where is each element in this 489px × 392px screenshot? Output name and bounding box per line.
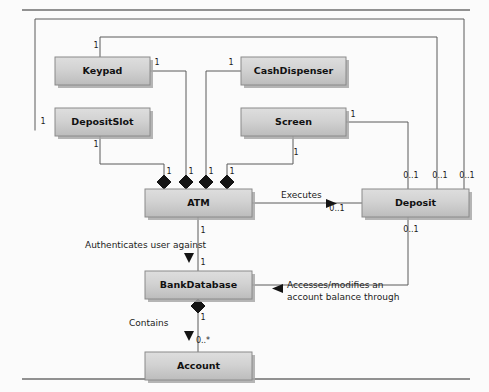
multiplicity-m-keypad-top: 1: [93, 41, 98, 50]
class-name-label: Deposit: [395, 197, 437, 208]
class-name-label: CashDispenser: [254, 65, 334, 76]
association-label-executes: Executes: [281, 190, 322, 200]
multiplicity-m-cashdispenser-left: 1: [228, 58, 233, 67]
multiplicity-m-atm-agg-3: 1: [208, 167, 213, 176]
multiplicity-m-atm-executes: 0..1: [329, 204, 344, 213]
multiplicity-m-atm-agg-4: 1: [229, 167, 234, 176]
class-name-label: Keypad: [83, 65, 123, 76]
multiplicity-m-depositslot-bottom: 1: [93, 140, 98, 149]
multiplicity-m-account-top: 0..*: [196, 336, 210, 345]
multiplicity-m-deposit-top-1: 0..1: [403, 171, 418, 180]
class-box-keypad[interactable]: Keypad: [55, 57, 153, 88]
class-box-atm[interactable]: ATM: [145, 189, 255, 220]
class-box-screen[interactable]: Screen: [241, 108, 349, 139]
association-label-contains: Contains: [129, 318, 169, 328]
class-name-label: Account: [177, 360, 221, 371]
multiplicity-m-deposit-bottom: 0..1: [403, 225, 418, 234]
class-box-account[interactable]: Account: [145, 352, 255, 383]
class-box-bankdatabase[interactable]: BankDatabase: [145, 271, 255, 302]
class-box-depositslot[interactable]: DepositSlot: [55, 108, 153, 139]
multiplicity-m-screen-bottom: 1: [293, 148, 298, 157]
multiplicity-m-keypad-right: 1: [154, 58, 159, 67]
multiplicity-m-bankdb-bottom: 1: [200, 313, 205, 322]
association-label-accesses-line2: account balance through: [287, 292, 399, 302]
association-label-authenticates: Authenticates user against: [85, 240, 207, 250]
multiplicity-m-bankdb-top: 1: [200, 258, 205, 267]
class-box-deposit[interactable]: Deposit: [362, 189, 472, 220]
class-box-cashdispenser[interactable]: CashDispenser: [241, 57, 349, 88]
class-name-label: DepositSlot: [71, 116, 134, 127]
multiplicity-m-atm-agg-1: 1: [166, 167, 171, 176]
multiplicity-m-atm-agg-2: 1: [188, 167, 193, 176]
multiplicity-m-screen-right: 1: [350, 110, 355, 119]
multiplicity-m-deposit-top-3: 0..1: [459, 171, 474, 180]
class-name-label: Screen: [275, 116, 312, 127]
uml-class-diagram: KeypadCashDispenserDepositSlotScreenATMD…: [0, 0, 489, 392]
diagram-canvas: KeypadCashDispenserDepositSlotScreenATMD…: [0, 0, 489, 392]
multiplicity-m-deposit-top-2: 0..1: [432, 171, 447, 180]
class-name-label: ATM: [187, 197, 210, 208]
class-name-label: BankDatabase: [160, 279, 237, 290]
multiplicity-m-atm-bottom: 1: [200, 226, 205, 235]
association-label-accesses-line1: Accesses/modifies an: [287, 280, 384, 290]
multiplicity-m-depositslot-left: 1: [40, 117, 45, 126]
